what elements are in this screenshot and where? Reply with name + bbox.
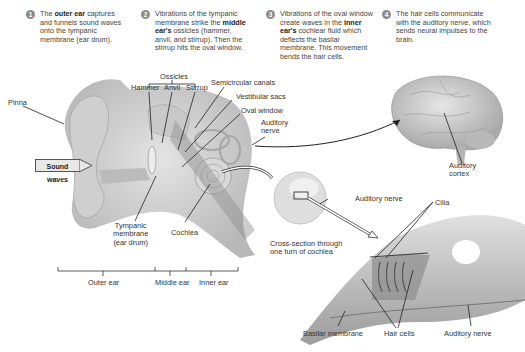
label-pinna: Pinna bbox=[8, 99, 27, 107]
label-line: (ear drum) bbox=[113, 239, 148, 247]
label-stirrup: Stirrup bbox=[186, 84, 208, 92]
label-cilia: Cilia bbox=[435, 199, 449, 207]
region-outer-ear: Outer ear bbox=[88, 279, 119, 287]
region-middle-ear: Middle ear bbox=[155, 279, 190, 287]
label-tympanic-membrane: Tympanic membrane (ear drum) bbox=[113, 222, 148, 247]
label-auditory-cortex: Auditory cortex bbox=[449, 162, 476, 179]
label-line: cortex bbox=[449, 170, 476, 178]
label-ossicles: Ossicles bbox=[160, 73, 188, 81]
region-bracket bbox=[58, 267, 238, 276]
label-semicircular-canals: Semicircular canals bbox=[211, 79, 275, 87]
label-line: one turn of cochlea bbox=[270, 248, 342, 256]
label-anvil: Anvil bbox=[164, 84, 180, 92]
label-auditory-nerve-cross: Auditory nerve bbox=[355, 195, 403, 203]
sound-waves-arrow: Sound waves bbox=[35, 159, 88, 172]
label-basilar-membrane: Basilar membrane bbox=[303, 330, 363, 338]
region-inner-ear: Inner ear bbox=[199, 279, 229, 287]
label-cross-section: Cross-section through one turn of cochle… bbox=[270, 240, 342, 257]
label-line: nerve bbox=[261, 127, 288, 135]
label-vestibular-sacs: Vestibular sacs bbox=[236, 93, 286, 101]
label-oval-window: Oval window bbox=[241, 107, 283, 115]
label-hair-cells: Hair cells bbox=[384, 330, 414, 338]
label-auditory-nerve-top: Auditory nerve bbox=[261, 119, 288, 136]
label-auditory-nerve-bottom: Auditory nerve bbox=[444, 330, 492, 338]
sound-waves-label: Sound waves bbox=[35, 159, 79, 172]
label-cochlea: Cochlea bbox=[171, 229, 198, 237]
ear-illustration bbox=[0, 0, 525, 352]
label-hammer: Hammer bbox=[131, 84, 159, 92]
